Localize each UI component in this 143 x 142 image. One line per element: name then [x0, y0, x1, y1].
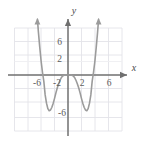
y-tick-pos6: 6: [57, 37, 62, 47]
x-tick-neg6: -6: [33, 78, 41, 88]
y-axis-label: y: [71, 5, 77, 16]
x-axis-label: x: [131, 62, 137, 73]
tick-labels: -6 -2 2 6 6 2 -6: [33, 37, 112, 118]
x-tick-pos2: 2: [80, 78, 85, 88]
left-branch-arrow: [35, 18, 41, 25]
y-tick-neg6: -6: [58, 108, 66, 118]
y-axis: [65, 19, 71, 136]
axis-names: x y: [71, 5, 137, 73]
graph-figure: -6 -2 2 6 6 2 -6 x y: [0, 0, 143, 142]
right-branch-arrow: [96, 18, 102, 25]
coordinate-plane: -6 -2 2 6 6 2 -6 x y: [0, 0, 143, 142]
x-tick-pos6: 6: [107, 78, 112, 88]
y-tick-pos2: 2: [57, 54, 62, 64]
x-tick-neg2: -2: [53, 78, 61, 88]
